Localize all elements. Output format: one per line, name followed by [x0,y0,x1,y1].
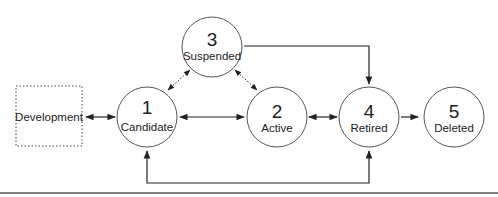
state-label: Candidate [121,121,173,133]
state-number: 5 [449,101,460,122]
state-label: Suspended [183,50,241,62]
state-suspended: 3 Suspended [182,17,242,77]
state-number: 4 [364,101,375,122]
state-number: 3 [207,29,218,50]
arrow-suspended-retired [244,46,369,84]
state-number: 1 [142,97,153,118]
development-label: Development [15,111,84,123]
lifecycle-diagram: Development 1 Candidate 2 Active 3 Suspe… [0,0,498,197]
arrow-candidate-suspended [168,70,190,90]
state-active: 2 Active [247,87,307,147]
state-label: Active [261,122,292,134]
state-retired: 4 Retired [339,87,399,147]
state-label: Retired [350,122,387,134]
state-deleted: 5 Deleted [424,87,484,147]
arrow-retired-candidate [147,151,369,183]
development-box: Development [15,86,84,146]
arrow-suspended-active [235,70,257,90]
state-candidate: 1 Candidate [117,87,177,147]
state-label: Deleted [434,122,474,134]
state-number: 2 [272,101,283,122]
